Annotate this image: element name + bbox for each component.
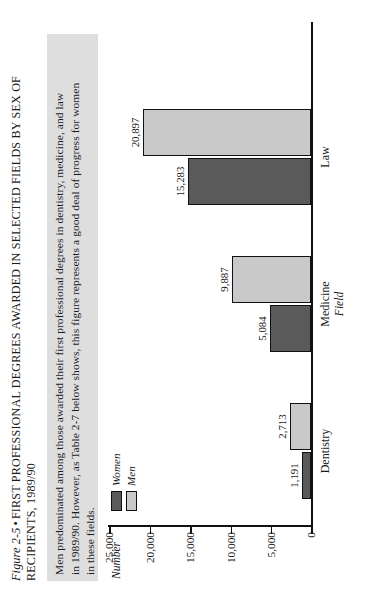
book-page: Figure 2-5•FIRST PROFESSIONAL DEGREES AW…	[0, 0, 371, 589]
y-tick-label: 10,000	[225, 532, 237, 563]
y-tick-label: 25,000	[103, 532, 115, 563]
bar-medicine-women: 5,084	[270, 305, 311, 352]
caption-bullet: •	[9, 519, 23, 527]
commentary-line-1: Men predominated among those awarded the…	[52, 40, 68, 575]
x-axis-title: Field	[333, 292, 345, 316]
figure-caption: Figure 2-5•FIRST PROFESSIONAL DEGREES AW…	[9, 21, 39, 581]
commentary-line-2: in 1989/90. However, as Table 2-7 below …	[68, 40, 84, 575]
bar-value-label: 2,713	[276, 414, 288, 438]
bar-law-men: 20,897	[143, 109, 312, 156]
commentary-line-3: in these fields.	[83, 40, 99, 575]
category-label-medicine: Medicine	[318, 281, 333, 326]
bar-value-label: 1,191	[288, 463, 300, 487]
figure-number: Figure 2-5	[9, 527, 23, 581]
bar-law-women: 15,283	[188, 158, 311, 205]
plot-area: 05,00010,00015,00020,00025,0001,1912,713…	[108, 22, 313, 527]
bar-chart: Number Women Men 05,00010,00015,00020,00…	[104, 0, 366, 589]
bar-medicine-men: 9,887	[232, 256, 312, 303]
y-tick-label: 5,000	[265, 532, 277, 557]
y-tick-label: 0	[305, 532, 317, 538]
rotated-page-canvas: Figure 2-5•FIRST PROFESSIONAL DEGREES AW…	[0, 0, 371, 589]
x-axis-line	[311, 22, 313, 527]
bar-dentistry-men: 2,713	[290, 403, 312, 450]
y-axis-line	[108, 525, 313, 527]
category-label-dentistry: Dentistry	[318, 429, 333, 474]
bar-value-label: 20,897	[129, 118, 141, 148]
bar-dentistry-women: 1,191	[302, 452, 312, 499]
category-label-law: Law	[318, 146, 333, 167]
bar-value-label: 15,283	[174, 167, 186, 197]
commentary-box: Men predominated among those awarded the…	[47, 34, 98, 581]
bar-value-label: 5,084	[256, 316, 268, 340]
caption-title-line-2: RECIPIENTS, 1989/90	[24, 463, 38, 581]
caption-line-1: Figure 2-5•FIRST PROFESSIONAL DEGREES AW…	[9, 21, 24, 581]
caption-title-line-1: FIRST PROFESSIONAL DEGREES AWARDED IN SE…	[9, 76, 23, 519]
bar-value-label: 9,887	[218, 267, 230, 291]
y-tick-label: 15,000	[184, 532, 196, 563]
caption-line-2: RECIPIENTS, 1989/90	[24, 21, 39, 581]
y-tick-label: 20,000	[144, 532, 156, 563]
